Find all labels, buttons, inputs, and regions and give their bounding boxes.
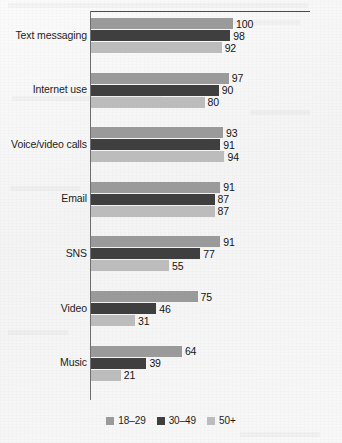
bar-row: 97: [91, 73, 342, 84]
bar-row: 87: [91, 194, 342, 205]
bar-value-label: 87: [218, 193, 229, 205]
category-label: Music: [60, 356, 87, 368]
bar: [91, 139, 220, 150]
bar-row: 90: [91, 85, 342, 96]
bar: [91, 248, 200, 259]
bar-row: 80: [91, 97, 342, 108]
legend-label: 50+: [219, 415, 236, 426]
bar-value-label: 21: [124, 369, 135, 381]
bar-value-label: 91: [223, 236, 234, 248]
plot-area: Text messaging1009892Internet use979080V…: [0, 0, 342, 443]
legend-swatch: [106, 417, 114, 425]
bar: [91, 346, 182, 357]
category-label: Internet use: [33, 83, 87, 95]
bar-row: 64: [91, 346, 342, 357]
bar-row: 92: [91, 42, 342, 53]
category-label: SNS: [66, 247, 87, 259]
bar-row: 39: [91, 358, 342, 369]
legend-swatch: [207, 417, 215, 425]
bar-value-label: 98: [233, 30, 244, 42]
bar-row: 91: [91, 236, 342, 247]
bar-row: 31: [91, 315, 342, 326]
bar-row: 55: [91, 260, 342, 271]
bar-row: 94: [91, 151, 342, 162]
bar-row: 100: [91, 18, 342, 29]
legend-item[interactable]: 18–29: [106, 415, 145, 426]
bar: [91, 260, 169, 271]
legend-item[interactable]: 30–49: [157, 415, 196, 426]
bar-value-label: 80: [208, 96, 219, 108]
bar-row: 93: [91, 127, 342, 138]
bar: [91, 358, 146, 369]
bar: [91, 85, 219, 96]
bar-value-label: 100: [236, 18, 253, 30]
bar: [91, 73, 229, 84]
grouped-bar-chart: Text messaging1009892Internet use979080V…: [0, 0, 342, 443]
bar-value-label: 91: [223, 181, 234, 193]
bar-row: 87: [91, 206, 342, 217]
bar-value-label: 75: [201, 291, 212, 303]
bar-row: 77: [91, 248, 342, 259]
bar-row: 91: [91, 182, 342, 193]
bar-value-label: 31: [138, 315, 149, 327]
bar-row: 98: [91, 30, 342, 41]
bar-value-label: 46: [159, 303, 170, 315]
bar: [91, 182, 220, 193]
bar-value-label: 39: [149, 357, 160, 369]
category-label: Video: [61, 302, 87, 314]
bar-value-label: 90: [222, 84, 233, 96]
bar-row: 75: [91, 291, 342, 302]
category-label: Voice/video calls: [11, 138, 87, 150]
bar: [91, 206, 215, 217]
bar-value-label: 97: [232, 72, 243, 84]
bar-row: 21: [91, 370, 342, 381]
bar: [91, 194, 215, 205]
bar-value-label: 64: [185, 345, 196, 357]
bar: [91, 30, 230, 41]
bar-value-label: 87: [218, 205, 229, 217]
bar-value-label: 92: [225, 42, 236, 54]
bar: [91, 151, 224, 162]
bar: [91, 236, 220, 247]
category-label: Text messaging: [15, 29, 87, 41]
bar-value-label: 91: [223, 139, 234, 151]
bar-value-label: 77: [203, 248, 214, 260]
bar: [91, 370, 121, 381]
bar: [91, 315, 135, 326]
bar-value-label: 93: [226, 127, 237, 139]
category-label: Email: [61, 192, 87, 204]
legend-item[interactable]: 50+: [207, 415, 236, 426]
bar: [91, 42, 222, 53]
bar-value-label: 55: [172, 260, 183, 272]
bar: [91, 303, 156, 314]
legend-label: 18–29: [118, 415, 145, 426]
legend-label: 30–49: [169, 415, 196, 426]
chart-legend: 18–2930–4950+: [0, 415, 342, 426]
bar: [91, 97, 205, 108]
bar: [91, 291, 198, 302]
bar: [91, 127, 223, 138]
bar: [91, 18, 233, 29]
bar-value-label: 94: [227, 151, 238, 163]
bar-row: 91: [91, 139, 342, 150]
bar-row: 46: [91, 303, 342, 314]
legend-swatch: [157, 417, 165, 425]
